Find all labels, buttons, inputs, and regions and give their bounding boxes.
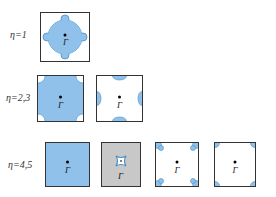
svg-text:Γ: Γ: [57, 100, 64, 110]
panel-eta45-corner-pockets: Γ: [214, 142, 256, 187]
svg-text:Γ: Γ: [116, 100, 123, 110]
svg-text:Γ: Γ: [117, 171, 124, 181]
svg-text:Γ: Γ: [62, 37, 69, 47]
svg-text:Γ: Γ: [64, 165, 71, 175]
panel-eta45-gray: Γ: [101, 142, 141, 187]
svg-text:Γ: Γ: [174, 165, 181, 175]
row-label-eta-1: η=1: [10, 29, 27, 40]
panel-eta45-filled: Γ: [45, 142, 90, 187]
panel-eta45-corner-lobes: Γ: [155, 142, 199, 187]
row-label-eta-2-3: η=2,3: [6, 92, 30, 103]
panel-eta23-filled: Γ: [37, 75, 84, 122]
panel-eta1-star: Γ: [40, 12, 90, 62]
row-label-eta-4-5: η=4,5: [8, 159, 32, 170]
svg-text:Γ: Γ: [232, 165, 239, 175]
panel-eta23-pockets: Γ: [96, 75, 143, 122]
